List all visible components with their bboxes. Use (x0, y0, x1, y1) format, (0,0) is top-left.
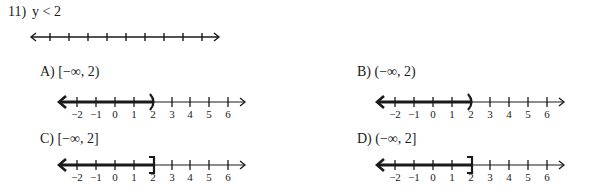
svg-text:−1: −1 (408, 171, 420, 183)
svg-text:2: 2 (468, 171, 474, 183)
svg-text:−2: −2 (389, 171, 401, 183)
choice-d-number-line: −2−10 123 456 (0, 0, 595, 196)
svg-text:1: 1 (449, 171, 455, 183)
svg-text:5: 5 (525, 171, 531, 183)
svg-text:3: 3 (487, 171, 493, 183)
svg-text:4: 4 (506, 171, 512, 183)
svg-text:6: 6 (544, 171, 550, 183)
svg-text:0: 0 (430, 171, 436, 183)
